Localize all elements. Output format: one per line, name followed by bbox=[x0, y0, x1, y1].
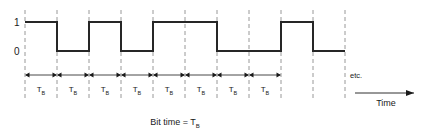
bit-time-label: TB bbox=[133, 85, 142, 96]
left-arrow-icon bbox=[249, 72, 254, 77]
bit-time-label: TB bbox=[165, 85, 174, 96]
bit-time-label-subscript: B bbox=[202, 90, 206, 96]
bit-time-label: TB bbox=[197, 85, 206, 96]
bit-time-label-subscript: B bbox=[42, 90, 46, 96]
left-arrow-icon bbox=[217, 72, 222, 77]
caption-subscript: B bbox=[196, 123, 200, 129]
left-arrow-icon bbox=[57, 72, 62, 77]
right-arrow-icon bbox=[85, 72, 90, 77]
bit-time-label-subscript: B bbox=[74, 90, 78, 96]
right-arrow-icon bbox=[277, 72, 282, 77]
right-arrow-icon bbox=[149, 72, 154, 77]
caption-text: Bit time = TB bbox=[150, 117, 200, 129]
bit-time-label-subscript: B bbox=[170, 90, 174, 96]
right-arrow-icon bbox=[53, 72, 58, 77]
bit-time-label-subscript: B bbox=[234, 90, 238, 96]
right-arrow-icon bbox=[181, 72, 186, 77]
bit-time-label-subscript: B bbox=[266, 90, 270, 96]
right-arrow-icon bbox=[406, 90, 414, 96]
bit-time-label: TB bbox=[37, 85, 46, 96]
right-arrow-icon bbox=[213, 72, 218, 77]
left-arrow-icon bbox=[121, 72, 126, 77]
caption-main-text: Bit time = T bbox=[150, 117, 196, 127]
bit-time-label: TB bbox=[229, 85, 238, 96]
time-axis-group: Time bbox=[355, 90, 414, 108]
bit-time-label-subscript: B bbox=[106, 90, 110, 96]
bit-time-label: TB bbox=[261, 85, 270, 96]
figure-caption: Bit time = TB bbox=[150, 117, 200, 129]
left-arrow-icon bbox=[89, 72, 94, 77]
left-arrow-icon bbox=[153, 72, 158, 77]
axis-label-high: 1 bbox=[14, 17, 20, 28]
time-axis-label: Time bbox=[376, 98, 396, 108]
waveform-figure: 1 0 TBTBTBTBTBTBTBTB etc. Time Bit time … bbox=[0, 0, 424, 135]
right-arrow-icon bbox=[117, 72, 122, 77]
right-arrow-icon bbox=[245, 72, 250, 77]
left-arrow-icon bbox=[25, 72, 30, 77]
bit-time-label: TB bbox=[101, 85, 110, 96]
axis-label-low: 0 bbox=[14, 46, 20, 57]
bit-time-label: TB bbox=[69, 85, 78, 96]
left-arrow-icon bbox=[185, 72, 190, 77]
etc-label: etc. bbox=[350, 71, 362, 80]
bit-time-label-subscript: B bbox=[138, 90, 142, 96]
